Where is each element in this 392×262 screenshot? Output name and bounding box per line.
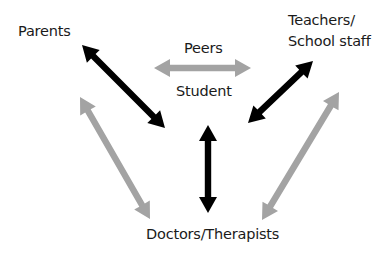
arrow-parents-student: [82, 45, 165, 128]
node-parents: Parents: [18, 21, 71, 42]
node-teachers-line2: School staff: [288, 31, 371, 52]
arrow-student-doctors: [199, 125, 217, 213]
node-peers: Peers: [184, 38, 223, 59]
node-teachers-line1: Teachers/: [288, 10, 371, 31]
node-student: Student: [176, 81, 232, 102]
arrow-student-peers: [154, 59, 251, 77]
arrow-teachers-doctors: [262, 92, 339, 220]
arrow-parents-doctors: [80, 97, 150, 219]
node-teachers-school-staff: Teachers/ School staff: [288, 10, 371, 52]
node-doctors-therapists: Doctors/Therapists: [146, 224, 279, 245]
arrow-teachers-student: [248, 61, 313, 123]
